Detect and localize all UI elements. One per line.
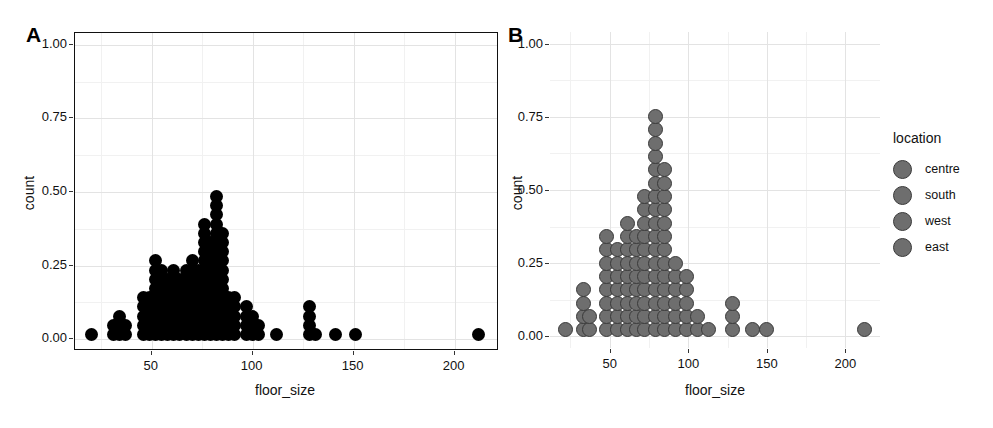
data-point <box>657 242 672 257</box>
data-point <box>119 319 132 332</box>
x-tick-mark <box>767 349 768 353</box>
gridline-minor-y <box>550 227 880 228</box>
data-point <box>216 227 229 240</box>
legend: location centresouthwesteast <box>893 130 993 260</box>
panel-a: A count floor_size 0.000.250.500.751.005… <box>0 0 500 428</box>
x-tick-mark <box>252 351 253 355</box>
data-point <box>657 189 672 204</box>
x-tick-label: 100 <box>229 358 275 373</box>
data-point <box>679 282 694 297</box>
data-point <box>725 296 740 311</box>
y-tick-mark <box>69 191 73 192</box>
legend-item-label: south <box>925 188 956 202</box>
data-point <box>725 322 740 337</box>
x-tick-label: 150 <box>330 358 376 373</box>
legend-item-centre[interactable]: centre <box>893 156 993 182</box>
gridline-minor-y <box>550 80 880 81</box>
y-tick-label: 0.25 <box>27 257 67 272</box>
gridline-major-x <box>253 33 254 349</box>
y-tick-label: 1.00 <box>503 36 543 51</box>
y-tick-label: 0.00 <box>503 328 543 343</box>
gridline-major-y <box>550 117 880 118</box>
legend-items: centresouthwesteast <box>893 156 993 260</box>
gridline-minor-y <box>75 155 497 156</box>
y-tick-mark <box>69 265 73 266</box>
data-point <box>85 328 98 341</box>
y-tick-mark <box>545 190 549 191</box>
panel-a-plot-area <box>74 32 498 350</box>
x-tick-mark <box>151 351 152 355</box>
y-tick-label: 0.75 <box>503 109 543 124</box>
legend-key-icon <box>893 186 912 205</box>
data-point <box>576 282 591 297</box>
legend-item-label: west <box>925 214 951 228</box>
legend-item-south[interactable]: south <box>893 182 993 208</box>
x-tick-label: 100 <box>665 356 711 371</box>
y-tick-mark <box>69 338 73 339</box>
x-tick-mark <box>454 351 455 355</box>
y-tick-mark <box>545 263 549 264</box>
legend-item-east[interactable]: east <box>893 234 993 260</box>
y-tick-label: 0.75 <box>27 109 67 124</box>
data-point <box>657 176 672 191</box>
legend-item-west[interactable]: west <box>893 208 993 234</box>
gridline-minor-y <box>550 153 880 154</box>
panel-b-plot-area <box>550 32 880 348</box>
data-point <box>679 269 694 284</box>
data-point <box>745 322 760 337</box>
data-point <box>668 256 683 271</box>
data-point <box>657 202 672 217</box>
data-point <box>759 322 774 337</box>
y-tick-label: 0.25 <box>503 255 543 270</box>
x-tick-label: 200 <box>822 356 868 371</box>
y-tick-label: 0.50 <box>503 182 543 197</box>
data-point <box>725 309 740 324</box>
gridline-major-y <box>75 266 497 267</box>
data-point <box>648 122 663 137</box>
data-point <box>582 322 597 337</box>
gridline-minor-y <box>75 229 497 230</box>
legend-key-icon <box>893 160 912 179</box>
panel-b: B count floor_size 0.000.250.500.751.005… <box>500 0 880 428</box>
data-point <box>599 229 614 244</box>
panel-b-x-axis-title: floor_size <box>550 382 880 398</box>
legend-key-icon <box>893 238 912 257</box>
x-tick-mark <box>353 351 354 355</box>
figure-root: A count floor_size 0.000.250.500.751.005… <box>0 0 993 428</box>
legend-item-label: east <box>925 240 949 254</box>
x-tick-mark <box>610 349 611 353</box>
y-tick-mark <box>69 117 73 118</box>
y-tick-mark <box>545 336 549 337</box>
panel-a-x-axis-title: floor_size <box>74 382 496 398</box>
data-point <box>648 109 663 124</box>
gridline-major-y <box>75 118 497 119</box>
gridline-major-x <box>455 33 456 349</box>
y-tick-label: 0.00 <box>27 330 67 345</box>
data-point <box>210 190 223 203</box>
data-point <box>857 322 872 337</box>
data-point <box>309 328 322 341</box>
y-tick-label: 1.00 <box>27 36 67 51</box>
data-point <box>679 296 694 311</box>
data-point <box>620 216 635 231</box>
data-point <box>690 309 705 324</box>
data-point <box>701 322 716 337</box>
x-tick-label: 50 <box>128 358 174 373</box>
y-tick-mark <box>545 44 549 45</box>
data-point <box>582 309 597 324</box>
gridline-major-y <box>75 192 497 193</box>
data-point <box>329 328 342 341</box>
data-point <box>657 216 672 231</box>
data-point <box>198 218 211 231</box>
data-point <box>648 136 663 151</box>
gridline-major-y <box>550 336 880 337</box>
x-tick-label: 150 <box>744 356 790 371</box>
x-tick-mark <box>845 349 846 353</box>
data-point <box>657 229 672 244</box>
data-point <box>657 162 672 177</box>
gridline-major-x <box>354 33 355 349</box>
x-tick-label: 50 <box>587 356 633 371</box>
x-tick-mark <box>688 349 689 353</box>
gridline-major-y <box>550 190 880 191</box>
legend-title: location <box>893 130 993 146</box>
